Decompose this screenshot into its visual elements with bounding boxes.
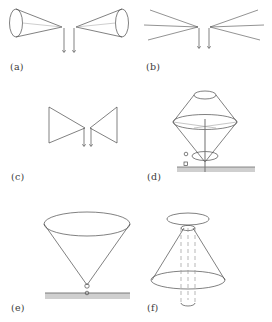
ray-b-right-3 [210, 27, 260, 40]
panel-d-graphic [173, 91, 255, 172]
panel-d-lower-right-edge [205, 122, 237, 162]
panel-d-square-marker [184, 162, 188, 166]
ray-b-left-2 [144, 25, 198, 27]
right-cone-solid [76, 9, 129, 37]
left-ray-bundle [144, 10, 198, 40]
panel-label-b: (b) [146, 62, 160, 72]
panel-label-f: (f) [147, 303, 159, 313]
panel-d-top-ellipse [194, 91, 216, 99]
ray-b-left-1 [150, 10, 198, 27]
panel-d-cross-left [173, 122, 216, 128]
panel-f-graphic [151, 213, 225, 306]
panel-e-right-edge [87, 224, 130, 285]
ray-b-left-3 [148, 27, 198, 40]
panel-f-cylinder-bottom-cap [181, 303, 195, 306]
left-triangle [49, 107, 85, 143]
right-cone-base-ellipse [116, 9, 129, 37]
left-cone-lower-edge [16, 27, 62, 37]
figure-canvas [0, 0, 272, 322]
panel-e-left-edge [44, 224, 87, 285]
panel-d-upper-left-edge [173, 95, 194, 122]
ray-b-right-1 [210, 10, 258, 27]
panel-label-c: (c) [11, 172, 24, 182]
panel-d-cross-right [194, 122, 237, 128]
panel-label-e: (e) [11, 303, 25, 313]
panel-b-graphic [144, 10, 264, 48]
panel-d-upper-right-edge [216, 95, 237, 122]
left-cone-base-ellipse [10, 9, 23, 37]
panel-c-graphic [49, 107, 117, 146]
panel-f-right-edge [193, 228, 225, 280]
right-cone-upper-edge [76, 9, 122, 27]
left-cone-upper-edge [16, 9, 62, 27]
panel-label-a: (a) [10, 62, 24, 72]
left-cone-solid [10, 9, 63, 37]
panel-e-top-ellipse [44, 212, 130, 236]
panel-f-top-disc-ellipse [167, 213, 209, 225]
panel-label-d: (d) [147, 172, 161, 182]
right-triangle [90, 107, 117, 143]
panel-d-circle-marker [184, 152, 188, 156]
figure-root: (a) (b) (c) (d) (e) (f) [0, 0, 272, 322]
right-cone-lower-edge [76, 27, 122, 37]
panel-a-graphic [10, 9, 129, 52]
panel-d-ground-plane [177, 167, 255, 172]
panel-e-ground-plane [45, 293, 130, 299]
ray-b-right-2 [210, 25, 264, 27]
right-ray-bundle [210, 10, 264, 40]
panel-e-graphic [44, 212, 130, 299]
panel-d-lower-left-edge [173, 122, 205, 162]
